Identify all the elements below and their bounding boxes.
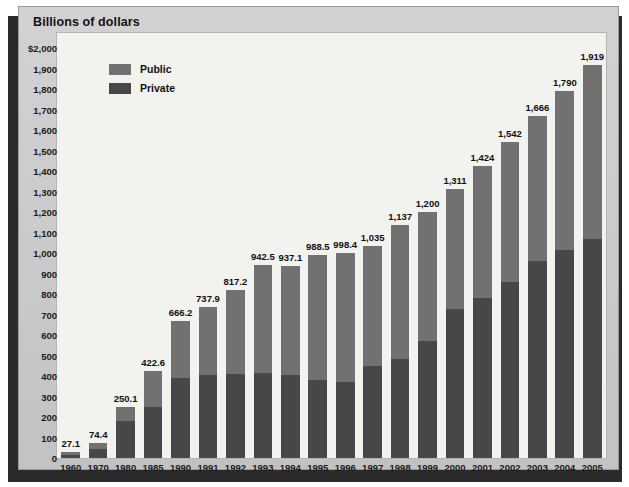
bar-value-label: 937.1 [278, 252, 302, 263]
bar-segment-private [199, 375, 218, 458]
bar-value-label: 1,424 [471, 152, 495, 163]
bar-column[interactable] [116, 407, 135, 458]
bar-value-label: 1,137 [388, 211, 412, 222]
x-axis-tick-label: 1995 [307, 462, 328, 473]
bar-column[interactable] [473, 166, 492, 458]
bar-segment-private [528, 261, 547, 458]
bar-segment-private [226, 374, 245, 458]
bar-value-label: 666.2 [169, 307, 193, 318]
y-axis-tick-label: 900 [15, 268, 57, 279]
chart-screenshot: Billions of dollars $2,0001,9001,8001,70… [0, 0, 629, 487]
x-axis-tick-label: 2000 [444, 462, 465, 473]
bar-column[interactable] [226, 290, 245, 458]
bar-segment-public [363, 246, 382, 366]
bar-segment-private [281, 375, 300, 458]
bar-column[interactable] [501, 142, 520, 458]
bar-segment-private [391, 359, 410, 458]
bar-column[interactable] [555, 91, 574, 458]
y-axis-tick-label: 400 [15, 371, 57, 382]
y-axis-tick-label: $2,000 [15, 43, 57, 54]
y-axis-tick-label: 500 [15, 350, 57, 361]
bar-segment-public [336, 253, 355, 382]
bar-value-label: 74.4 [89, 429, 108, 440]
y-axis-tick-label: 1,100 [15, 227, 57, 238]
x-axis: 1960197019801985199019911992199319941995… [56, 462, 607, 478]
x-axis-tick-label: 1991 [197, 462, 218, 473]
x-axis-tick-label: 2004 [554, 462, 575, 473]
bar-column[interactable] [446, 189, 465, 458]
y-axis-tick-label: 700 [15, 309, 57, 320]
y-axis-tick-label: 600 [15, 330, 57, 341]
bar-column[interactable] [583, 65, 602, 458]
x-axis-tick-label: 2003 [527, 462, 548, 473]
bar-segment-public [473, 166, 492, 298]
bar-segment-private [446, 309, 465, 458]
bar-column[interactable] [254, 265, 273, 458]
bar-value-label: 988.5 [306, 241, 330, 252]
y-axis-tick-label: 1,800 [15, 84, 57, 95]
y-axis: $2,0001,9001,8001,7001,6001,5001,4001,30… [11, 33, 57, 458]
bar-segment-public [418, 212, 437, 341]
bar-segment-public [116, 407, 135, 421]
bar-segment-public [199, 307, 218, 375]
chart-panel: Billions of dollars $2,0001,9001,8001,70… [18, 6, 619, 470]
y-axis-tick-label: 1,200 [15, 207, 57, 218]
y-axis-tick-label: 100 [15, 432, 57, 443]
bar-value-label: 998.4 [333, 239, 357, 250]
x-axis-tick-label: 1980 [115, 462, 136, 473]
bar-segment-private [61, 455, 80, 458]
bar-segment-private [116, 421, 135, 458]
bar-column[interactable] [281, 266, 300, 458]
bar-segment-private [418, 341, 437, 458]
bar-column[interactable] [363, 246, 382, 458]
y-axis-tick-label: 1,600 [15, 125, 57, 136]
y-axis-tick-label: 200 [15, 412, 57, 423]
bar-column[interactable] [336, 253, 355, 458]
y-axis-tick-label: 1,900 [15, 63, 57, 74]
bar-column[interactable] [61, 452, 80, 458]
bar-column[interactable] [528, 116, 547, 458]
x-axis-tick-label: 2005 [582, 462, 603, 473]
bar-column[interactable] [144, 371, 163, 458]
bar-value-label: 737.9 [196, 293, 220, 304]
bar-segment-private [473, 298, 492, 458]
x-axis-tick-label: 1996 [335, 462, 356, 473]
bar-segment-public [583, 65, 602, 239]
x-axis-tick-label: 1997 [362, 462, 383, 473]
bar-segment-private [89, 449, 108, 458]
x-axis-tick-label: 1985 [142, 462, 163, 473]
x-axis-tick-label: 1960 [60, 462, 81, 473]
bar-segment-private [308, 380, 327, 458]
bar-column[interactable] [391, 225, 410, 458]
x-axis-tick-label: 1990 [170, 462, 191, 473]
bar-value-label: 250.1 [114, 393, 138, 404]
y-axis-tick-label: 300 [15, 391, 57, 402]
bar-segment-public [61, 452, 80, 455]
bar-value-label: 1,919 [580, 51, 604, 62]
bar-segment-public [555, 91, 574, 250]
x-axis-tick-label: 1998 [390, 462, 411, 473]
x-axis-tick-label: 1994 [280, 462, 301, 473]
bar-value-label: 1,542 [498, 128, 522, 139]
x-axis-tick-label: 1999 [417, 462, 438, 473]
y-axis-tick-label: 1,500 [15, 145, 57, 156]
bar-segment-public [254, 265, 273, 373]
bar-segment-public [446, 189, 465, 309]
bar-segment-private [336, 382, 355, 458]
bar-value-label: 1,666 [525, 102, 549, 113]
bar-value-label: 1,035 [361, 232, 385, 243]
y-axis-tick-label: 1,700 [15, 104, 57, 115]
bar-segment-public [226, 290, 245, 373]
bar-segment-private [583, 239, 602, 458]
bar-column[interactable] [171, 321, 190, 458]
bar-value-label: 27.1 [61, 438, 80, 449]
bar-column[interactable] [89, 443, 108, 458]
plot-area: $2,0001,9001,8001,7001,6001,5001,4001,30… [56, 32, 607, 459]
bar-segment-public [171, 321, 190, 378]
bar-column[interactable] [199, 307, 218, 458]
bar-segment-private [555, 250, 574, 458]
bar-value-label: 1,311 [443, 175, 466, 186]
bar-column[interactable] [418, 212, 437, 458]
y-axis-tick-label: 1,300 [15, 186, 57, 197]
bar-column[interactable] [308, 255, 327, 458]
